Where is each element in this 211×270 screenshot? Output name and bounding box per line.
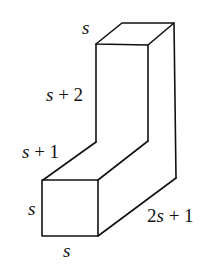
label-base-length: 2s + 1 [147, 205, 194, 226]
label-top-depth: s [82, 17, 89, 38]
back-right-vertical-edge [174, 23, 176, 178]
label-upper-height: s + 2 [46, 84, 83, 105]
l-shaped-solid-diagram: s s + 2 s + 1 s s 2s + 1 [0, 0, 211, 270]
dimension-labels: s s + 2 s + 1 s s 2s + 1 [22, 17, 194, 261]
label-front-height: s [28, 198, 35, 219]
top-face [96, 23, 174, 45]
slant-right-edge [98, 141, 148, 180]
label-front-width: s [63, 240, 70, 261]
label-slant-length: s + 1 [22, 141, 59, 162]
front-square-face [42, 180, 98, 236]
